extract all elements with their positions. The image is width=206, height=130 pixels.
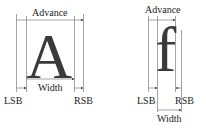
advance-label-right: Advance	[145, 5, 181, 15]
advance-label-left: Advance	[32, 8, 68, 18]
width-label-left: Width	[38, 83, 63, 93]
rsb-label-right: RSB	[175, 96, 194, 106]
lsb-label-right: LSB	[137, 96, 155, 106]
width-label-right: Width	[157, 114, 182, 124]
glyph-f: f	[155, 18, 176, 82]
glyph-a: A	[26, 25, 72, 89]
lsb-label-left: LSB	[4, 96, 22, 106]
rsb-label-left: RSB	[74, 96, 93, 106]
